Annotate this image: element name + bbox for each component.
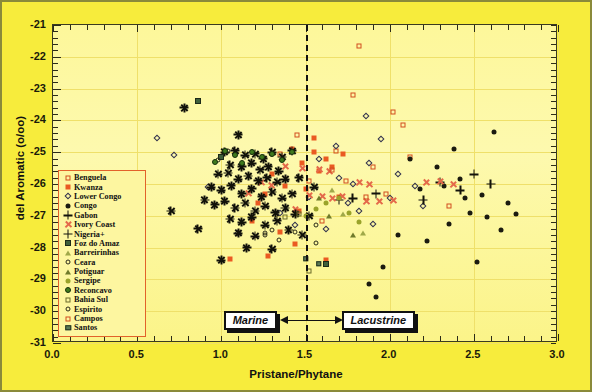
data-point — [486, 180, 495, 189]
data-point — [356, 179, 363, 186]
y-tick-label: -30 — [2, 304, 46, 316]
legend-item[interactable]: Potiguar — [63, 267, 142, 276]
data-point — [446, 221, 451, 226]
data-point — [378, 136, 385, 143]
data-point — [257, 192, 266, 201]
data-point — [348, 194, 357, 203]
legend-item[interactable]: Ivory Coast — [63, 220, 142, 229]
data-point — [370, 164, 375, 169]
x-axis-title: Pristane/Phytane — [2, 368, 590, 380]
legend-item-label: Ceara — [74, 258, 95, 267]
data-point — [367, 282, 372, 287]
data-point — [313, 240, 318, 245]
legend-marker-icon — [63, 276, 74, 285]
data-point — [505, 201, 510, 206]
data-point — [309, 183, 318, 192]
legend-item[interactable]: Ceara — [63, 258, 142, 267]
legend-item[interactable]: Congo — [63, 201, 142, 210]
data-point — [284, 226, 293, 235]
legend-item-label: Lower Congo — [74, 192, 121, 201]
data-point — [232, 152, 238, 158]
data-point — [230, 203, 239, 212]
data-point — [288, 189, 297, 198]
x-tick-label: 1.0 — [213, 348, 228, 360]
legend-marker-icon — [63, 258, 74, 267]
data-point — [468, 210, 473, 215]
data-point — [272, 216, 281, 225]
legend-item[interactable]: Gabon — [63, 211, 142, 220]
legend-item-label: Espirito — [74, 305, 102, 314]
data-point — [207, 183, 216, 192]
data-point — [337, 196, 342, 201]
axis-tick — [558, 25, 559, 32]
data-point — [463, 196, 468, 201]
gridline-horizontal — [53, 343, 556, 344]
legend-item[interactable]: Espirito — [63, 304, 142, 313]
legend-item[interactable]: Campos — [63, 314, 142, 323]
legend-item-label: Campos — [74, 314, 103, 323]
data-point — [247, 184, 256, 193]
data-point — [224, 168, 233, 177]
data-point — [315, 166, 322, 173]
legend-item[interactable]: Kwanza — [63, 182, 142, 191]
legend-item-label: Potiguar — [74, 267, 104, 276]
reference-line-divider — [306, 25, 308, 341]
data-point — [350, 232, 356, 237]
data-point — [293, 229, 298, 234]
legend-item[interactable]: Lower Congo — [63, 192, 142, 201]
lacustrine-callout: Lacustrine — [342, 311, 416, 330]
legend-item[interactable]: Benguela — [63, 173, 142, 182]
data-point — [395, 171, 402, 178]
legend-item-label: Gabon — [74, 211, 98, 220]
data-point — [320, 218, 325, 223]
data-point — [330, 167, 335, 172]
legend-item[interactable]: Reconcavo — [63, 286, 142, 295]
x-tick-label: 3.0 — [549, 348, 564, 360]
legend-item-label: Congo — [74, 201, 97, 210]
legend-item-label: Bahia Sul — [74, 295, 108, 304]
legend-marker-icon — [63, 295, 74, 304]
x-tick-label: 0.5 — [129, 348, 144, 360]
legend-item[interactable]: Barreirinhas — [63, 248, 142, 257]
data-point — [419, 195, 428, 204]
data-point — [237, 189, 246, 198]
legend-item[interactable]: Santos — [63, 323, 142, 332]
legend-marker-icon — [63, 267, 74, 276]
x-tick-label: 0.0 — [44, 348, 59, 360]
legend-marker-icon — [63, 230, 74, 239]
data-point — [293, 242, 298, 247]
data-point — [311, 135, 316, 140]
data-point — [343, 178, 348, 183]
data-point — [283, 183, 288, 188]
legend-marker-icon — [63, 286, 74, 295]
data-point — [485, 215, 490, 220]
legend-item[interactable]: Sergipe — [63, 276, 142, 285]
data-point — [200, 195, 209, 204]
data-point — [498, 228, 503, 233]
data-point — [279, 157, 285, 163]
data-point — [264, 162, 273, 171]
legend-item-label: Barreirinhas — [74, 248, 119, 257]
gridline-vertical — [558, 25, 559, 341]
data-point — [278, 229, 283, 234]
data-point — [390, 196, 397, 203]
data-point — [340, 151, 345, 156]
data-point — [267, 187, 276, 196]
y-tick-label: -31 — [2, 336, 46, 348]
data-point — [372, 189, 381, 198]
legend-item[interactable]: Foz do Amaz — [63, 239, 142, 248]
data-point — [269, 151, 275, 157]
data-point — [289, 149, 295, 155]
legend-item[interactable]: Nigeria+ — [63, 229, 142, 238]
data-point — [401, 123, 406, 128]
data-point — [336, 174, 343, 181]
data-point — [360, 231, 366, 236]
data-point — [244, 172, 253, 181]
data-point — [259, 154, 265, 160]
data-point — [492, 129, 497, 134]
x-tick-label: 1.5 — [297, 348, 312, 360]
data-point — [315, 155, 322, 162]
legend-item[interactable]: Bahia Sul — [63, 295, 142, 304]
data-point — [171, 152, 178, 159]
data-point — [269, 228, 274, 233]
